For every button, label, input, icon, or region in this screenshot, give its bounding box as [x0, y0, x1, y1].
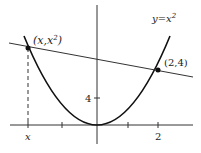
parabola-figure: (x,x2) y=x2 (2,4) 4 x 2 — [0, 0, 201, 153]
x-tick-label-2: 2 — [155, 131, 161, 142]
point-fixed — [156, 68, 161, 73]
curve-label: y=x2 — [151, 12, 177, 24]
y-tick-label-4: 4 — [85, 93, 91, 104]
point-general-label: (x,x2) — [33, 34, 62, 47]
point-fixed-label: (2,4) — [164, 57, 188, 68]
x-tick-label-x: x — [25, 131, 31, 142]
point-general — [26, 46, 31, 51]
